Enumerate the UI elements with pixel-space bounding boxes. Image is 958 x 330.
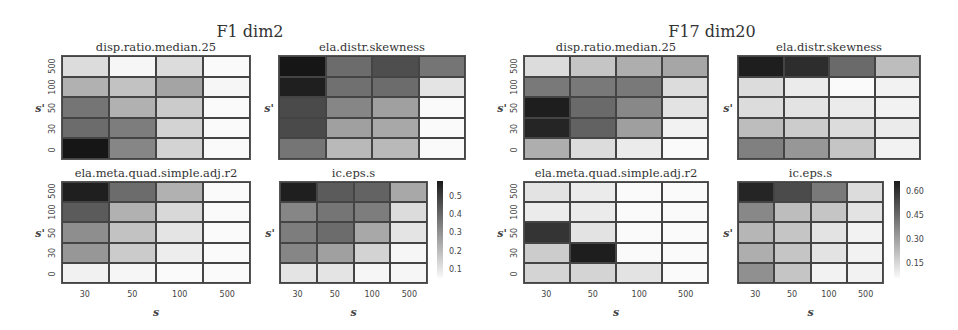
heatmap-cell [784,97,830,118]
y-tick-label: 500 [48,184,57,199]
heatmap-cell [616,97,662,118]
heatmap-cell [829,138,875,159]
heatmap-cell [774,222,810,242]
heatmap-cell [62,202,109,222]
heatmap-cell [847,182,883,202]
colorbar-tick-label: 0.1 [449,264,462,273]
colorbar-tick-label: 0.5 [449,191,462,200]
heatmap-cell [203,222,250,242]
y-tick-label: 0 [510,147,519,152]
heatmap-cell [811,222,847,242]
heatmap-cell [279,118,326,139]
heatmap-cell [203,97,250,118]
heatmap-cell [847,263,883,283]
heatmap-cell [326,118,373,139]
heatmap-cell [317,202,354,222]
heatmap-cell [738,118,784,139]
heatmap-cell [156,202,203,222]
heatmap-cell [616,56,662,77]
heatmap-cell [390,222,427,242]
heatmap-cell [109,138,156,159]
group-title: F1 dim2 [216,22,283,41]
heatmap-cell [317,222,354,242]
heatmap-cell [662,222,708,242]
panel-title: disp.ratio.median.25 [96,40,216,54]
heatmap-cell [109,77,156,98]
colorbar [894,181,900,278]
heatmap-cell [62,263,109,283]
x-axis-label: s [153,306,159,319]
colorbar-tick-label: 0.45 [906,210,924,219]
heatmap-cell [570,263,616,283]
heatmap-cell [326,138,373,159]
heatmap-cell [279,56,326,77]
heatmap-grid [737,181,884,284]
x-tick-label: 30 [293,290,303,299]
heatmap-cell [811,202,847,222]
heatmap-cell [156,56,203,77]
heatmap-cell [847,243,883,263]
heatmap-cell [62,56,109,77]
heatmap-cell [390,243,427,263]
x-tick-label: 30 [750,290,760,299]
y-axis-label: s' [723,101,733,114]
x-tick-label: 50 [787,290,797,299]
heatmap-cell [109,56,156,77]
heatmap-cell [524,138,570,159]
panel-title: disp.ratio.median.25 [556,40,676,54]
y-axis-label: s' [723,226,733,239]
heatmap-cell [203,243,250,263]
heatmap-grid [61,55,251,160]
heatmap-cell [662,263,708,283]
heatmap-cell [524,77,570,98]
heatmap-cell [875,97,921,118]
heatmap-cell [390,263,427,283]
x-tick-label: 100 [172,290,187,299]
heatmap-cell [280,243,317,263]
heatmap-cell [372,118,419,139]
heatmap-cell [524,202,570,222]
heatmap-cell [354,222,391,242]
heatmap-grid [523,55,709,160]
heatmap-cell [317,182,354,202]
heatmap-cell [109,243,156,263]
heatmap-cell [570,77,616,98]
heatmap-cell [784,118,830,139]
heatmap-cell [662,56,708,77]
x-axis-label: s [613,306,619,319]
x-tick-label: 50 [588,290,598,299]
heatmap-cell [738,243,774,263]
heatmap-cell [875,56,921,77]
heatmap-cell [203,263,250,283]
heatmap-cell [738,222,774,242]
heatmap-cell [156,138,203,159]
heatmap-cell [875,138,921,159]
x-tick-label: 100 [632,290,647,299]
heatmap-cell [774,182,810,202]
heatmap-cell [156,222,203,242]
y-tick-label: 100 [48,204,57,219]
x-tick-label: 500 [402,290,417,299]
heatmap-cell [156,97,203,118]
heatmap-grid [737,55,921,160]
group-title: F17 dim20 [668,22,755,41]
x-tick-label: 100 [364,290,379,299]
heatmap-cell [354,182,391,202]
heatmap-cell [774,263,810,283]
y-tick-label: 100 [510,204,519,219]
heatmap-cell [109,222,156,242]
heatmap-cell [524,222,570,242]
y-tick-label: 100 [48,79,57,94]
x-tick-label: 30 [80,290,90,299]
heatmap-cell [524,118,570,139]
heatmap-cell [738,138,784,159]
heatmap-cell [570,118,616,139]
heatmap-cell [570,222,616,242]
heatmap-cell [62,182,109,202]
heatmap-grid [523,181,709,284]
y-tick-label: 500 [48,58,57,73]
heatmap-cell [203,202,250,222]
y-tick-label: 30 [510,248,519,258]
heatmap-cell [372,77,419,98]
heatmap-cell [738,182,774,202]
